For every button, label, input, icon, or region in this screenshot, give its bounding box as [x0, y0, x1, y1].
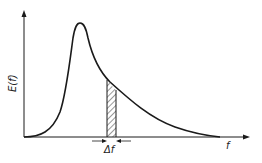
spectrum-curve	[24, 23, 220, 137]
spectrum-diagram: Δf f E(f)	[0, 0, 262, 163]
y-axis-label: E(f)	[7, 74, 18, 92]
delta-f-label: Δf	[103, 144, 116, 155]
y-axis	[22, 10, 27, 137]
delta-f-dimension	[92, 139, 131, 143]
x-axis-label: f	[226, 140, 231, 151]
